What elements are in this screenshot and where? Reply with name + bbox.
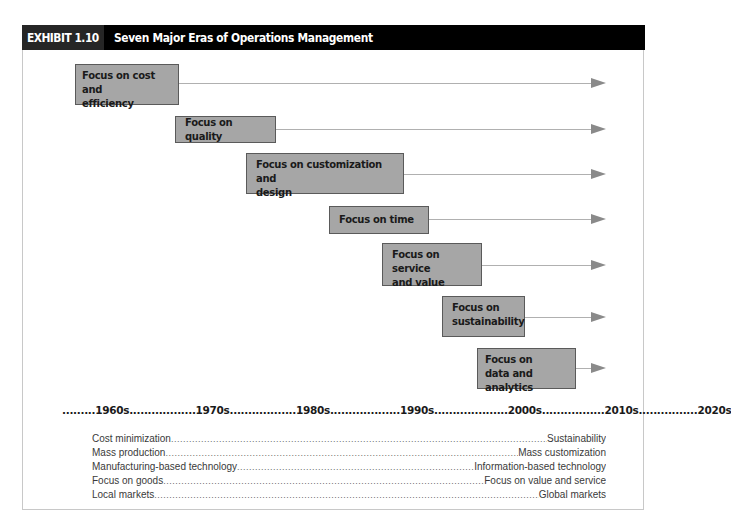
era-arrow-line xyxy=(482,265,591,266)
era-label-line1: Focus on time xyxy=(339,213,414,227)
shift-row: Local markets Global markets xyxy=(92,488,606,502)
shift-to: Mass customization xyxy=(518,446,606,459)
era-label-line1: Focus on service xyxy=(392,248,475,276)
arrow-head-icon xyxy=(591,363,606,373)
shift-from: Cost minimization xyxy=(92,432,171,445)
era-arrow-line xyxy=(525,317,591,318)
arrow-head-icon xyxy=(591,214,606,224)
exhibit-header: EXHIBIT 1.10 Seven Major Eras of Operati… xyxy=(22,25,645,50)
era-arrow-line xyxy=(576,368,591,369)
arrow-head-icon xyxy=(591,124,606,134)
decade-timeline: .........1960s..................1970s...… xyxy=(62,404,731,416)
arrow-head-icon xyxy=(591,312,606,322)
arrow-head-icon xyxy=(591,78,606,88)
dot-leader xyxy=(237,461,474,474)
era-label-line2: sustainability xyxy=(452,315,518,329)
era-label-line1: Focus on xyxy=(485,353,569,367)
era-box-quality: Focus on quality xyxy=(175,116,276,143)
era-arrow-line xyxy=(179,83,591,84)
shift-row: Cost minimization Sustainability xyxy=(92,432,606,446)
era-box-customization-design: Focus on customization and design xyxy=(246,153,404,194)
shift-from: Manufacturing-based technology xyxy=(92,460,237,473)
shift-row: Mass production Mass customization xyxy=(92,446,606,460)
dot-leader xyxy=(165,447,518,460)
shift-list: Cost minimization Sustainability Mass pr… xyxy=(92,432,606,502)
dot-leader xyxy=(154,489,539,502)
era-box-cost-efficiency: Focus on cost and efficiency xyxy=(75,64,179,105)
dot-leader xyxy=(163,475,484,488)
shift-to: Global markets xyxy=(539,488,606,501)
era-label-line2: and value xyxy=(392,276,475,290)
exhibit-title: Seven Major Eras of Operations Managemen… xyxy=(114,30,373,45)
era-label-line1: Focus on xyxy=(452,301,518,315)
era-arrow-line xyxy=(404,174,591,175)
exhibit-label: EXHIBIT 1.10 xyxy=(22,25,104,50)
shift-to: Information-based technology xyxy=(474,460,606,473)
era-label-line1: Focus on cost and xyxy=(82,69,172,97)
shift-row: Focus on goods Focus on value and servic… xyxy=(92,474,606,488)
era-label-line1: Focus on quality xyxy=(185,116,269,144)
era-label-line2: data and analytics xyxy=(485,367,569,395)
shift-to: Focus on value and service xyxy=(484,474,606,487)
era-label-line1: Focus on customization and xyxy=(256,158,397,186)
era-arrow-line xyxy=(276,129,591,130)
era-arrow-line xyxy=(429,219,591,220)
arrow-head-icon xyxy=(591,260,606,270)
shift-row: Manufacturing-based technology Informati… xyxy=(92,460,606,474)
shift-from: Focus on goods xyxy=(92,474,163,487)
shift-to: Sustainability xyxy=(547,432,606,445)
arrow-head-icon xyxy=(591,169,606,179)
era-box-sustainability: Focus on sustainability xyxy=(442,296,525,337)
shift-from: Local markets xyxy=(92,488,154,501)
shift-from: Mass production xyxy=(92,446,165,459)
era-label-line2: efficiency xyxy=(82,97,172,111)
dot-leader xyxy=(171,433,547,446)
era-box-time: Focus on time xyxy=(329,206,429,234)
era-box-data-analytics: Focus on data and analytics xyxy=(477,348,576,389)
era-label-line2: design xyxy=(256,186,397,200)
era-box-service-value: Focus on service and value xyxy=(382,243,482,286)
